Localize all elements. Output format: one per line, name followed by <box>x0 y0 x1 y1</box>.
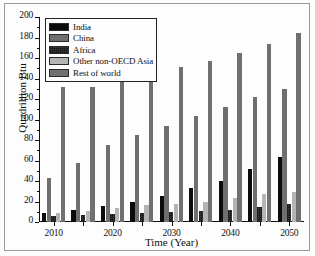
legend-item: Africa <box>49 44 153 56</box>
bar <box>253 97 257 222</box>
legend-swatch-india <box>49 23 69 31</box>
legend-swatch-china <box>49 34 69 42</box>
bar <box>267 44 271 222</box>
bar <box>120 80 124 222</box>
bar <box>76 163 80 222</box>
bar <box>169 212 173 222</box>
legend-item: China <box>49 33 153 45</box>
bar <box>149 74 153 222</box>
bar <box>174 204 178 222</box>
bar-group <box>189 17 213 222</box>
legend-item: Other non-OECD Asia <box>49 56 153 68</box>
bar <box>110 214 114 222</box>
bar <box>208 61 212 222</box>
bar <box>233 198 237 222</box>
x-axis-tick-mark <box>142 222 143 226</box>
bar <box>203 202 207 223</box>
legend-swatch-rest-of-world <box>49 69 69 77</box>
y-axis-tick-label: 0 <box>28 215 33 225</box>
bar <box>42 213 46 222</box>
bar <box>86 211 90 222</box>
y-axis-tick-label: 20 <box>24 195 33 205</box>
x-axis-tick-mark <box>289 222 290 226</box>
x-axis-tick-mark <box>230 222 231 226</box>
x-axis-tick-mark <box>201 222 202 226</box>
bar <box>179 67 183 222</box>
bar <box>189 188 193 222</box>
bar <box>292 192 296 222</box>
figure-container: 020406080100120140160180200 Quadrillion … <box>0 0 315 256</box>
legend-label: India <box>73 22 91 32</box>
legend-swatch-africa <box>49 46 69 54</box>
x-axis-tick-mark <box>54 222 55 226</box>
bar-group <box>248 17 272 222</box>
bar <box>287 204 291 222</box>
legend-label: Rest of world <box>73 68 121 78</box>
bar <box>282 89 286 222</box>
bar <box>144 205 148 222</box>
bar <box>135 135 139 222</box>
bar <box>219 181 223 222</box>
legend: IndiaChinaAfricaOther non-OECD AsiaRest … <box>45 18 157 82</box>
bar <box>296 33 300 222</box>
legend-swatch-other-non-oecd-asia <box>49 57 69 65</box>
bar <box>56 213 60 222</box>
x-axis-title: Time (Year) <box>39 236 304 248</box>
bar-group <box>278 17 302 222</box>
bar <box>237 53 241 222</box>
x-axis-tick-mark <box>260 222 261 226</box>
x-axis-tick-mark <box>172 222 173 226</box>
bar <box>262 194 266 222</box>
legend-item: India <box>49 21 153 33</box>
bar <box>61 87 65 222</box>
legend-label: Other non-OECD Asia <box>73 56 153 66</box>
bar <box>160 196 164 222</box>
bar <box>194 116 198 222</box>
bar-group <box>219 17 243 222</box>
legend-label: Africa <box>73 45 95 55</box>
bar <box>71 210 75 222</box>
bar <box>248 169 252 222</box>
bar <box>106 145 110 222</box>
bar <box>115 208 119 222</box>
bar <box>90 87 94 222</box>
x-axis-tick-mark <box>113 222 114 226</box>
legend-label: China <box>73 33 94 43</box>
bar <box>278 157 282 222</box>
x-axis-tick-mark <box>83 222 84 226</box>
bar <box>199 211 203 222</box>
bar <box>140 213 144 222</box>
y-axis-tick-label: 40 <box>24 174 33 184</box>
legend-item: Rest of world <box>49 67 153 79</box>
bar <box>101 206 105 222</box>
bar <box>130 202 134 223</box>
y-axis-tick-label: 200 <box>19 10 33 20</box>
bar <box>81 215 85 222</box>
bar-group <box>160 17 184 222</box>
bar <box>164 126 168 222</box>
bar <box>228 210 232 222</box>
y-axis-title: Quadrillion Btu <box>16 28 28 168</box>
bar <box>47 178 51 222</box>
bar <box>257 207 261 222</box>
bar <box>223 107 227 222</box>
